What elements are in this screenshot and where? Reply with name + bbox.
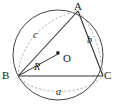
center-label-o: O bbox=[63, 53, 71, 64]
vertex-label-c: C bbox=[104, 70, 111, 81]
side-label-c: c bbox=[33, 30, 37, 40]
vertex-label-b: B bbox=[2, 70, 9, 81]
segment-ab bbox=[18, 11, 78, 76]
side-label-b: b bbox=[87, 35, 92, 45]
geometry-figure: A B C O R c b a bbox=[0, 0, 118, 112]
vertex-label-a: A bbox=[74, 1, 82, 12]
side-label-a: a bbox=[56, 87, 61, 97]
center-point-marker bbox=[56, 51, 59, 54]
radius-label-r: R bbox=[34, 62, 40, 72]
